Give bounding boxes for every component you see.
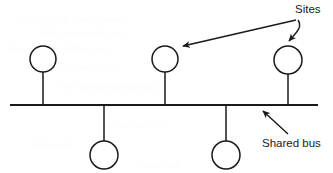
site-node-3	[152, 46, 178, 105]
sites-leader-line-right	[289, 20, 300, 41]
diagram-canvas: Sites Shared bus	[0, 0, 333, 173]
shared-bus-leader-line	[263, 111, 288, 134]
shared-bus-label: Shared bus	[262, 137, 321, 149]
site-node-1	[30, 46, 56, 105]
shared-bus-diagram: scanned page bleed-throughfaint reverse …	[0, 0, 333, 173]
sites-leader-line-left	[183, 20, 296, 46]
site-circle-2	[90, 141, 118, 169]
site-circle-3	[152, 46, 178, 72]
site-circle-5	[274, 46, 302, 74]
site-node-4	[212, 105, 240, 169]
sites-label: Sites	[295, 3, 321, 15]
site-circle-4	[212, 141, 240, 169]
site-node-2	[90, 105, 118, 169]
site-circle-1	[30, 46, 56, 72]
site-node-5	[274, 46, 302, 105]
